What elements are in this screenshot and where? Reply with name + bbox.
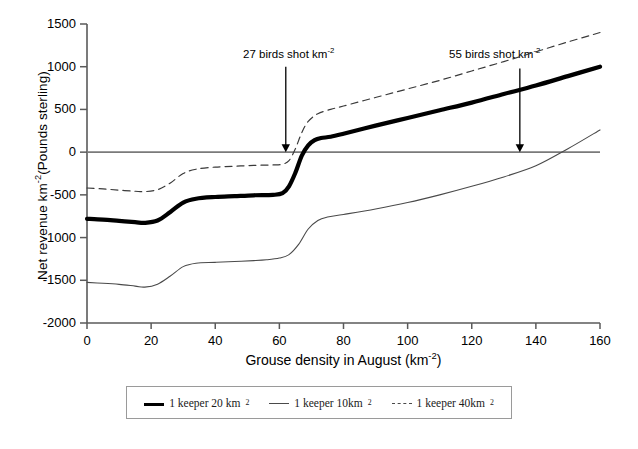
y-axis-title-base: Net revenue km <box>35 183 50 280</box>
y-axis-title-exponent: -2 <box>33 175 43 183</box>
x-axis-title: Grouse density in August (km-2) <box>87 352 600 368</box>
series-line-3 <box>87 33 600 192</box>
x-axis-title-tail: ) <box>437 352 442 368</box>
chart-legend: 1 keeper 20 km21 keeper 10km21 keeper 40… <box>126 386 512 419</box>
y-axis-title: Net revenue km-2(Pounds sterling) <box>35 26 50 326</box>
legend-item-2[interactable]: 1 keeper 10km2 <box>269 397 371 409</box>
legend-label: 1 keeper 10km <box>294 397 362 409</box>
legend-item-1[interactable]: 1 keeper 20 km2 <box>144 397 249 409</box>
legend-swatch-icon <box>144 398 164 408</box>
series-line-2 <box>87 130 600 287</box>
annotation-arrow-head-2 <box>516 144 524 152</box>
legend-item-3[interactable]: 1 keeper 40km2 <box>392 397 494 409</box>
legend-swatch-icon <box>269 398 289 408</box>
legend-label: 1 keeper 20 km <box>169 397 240 409</box>
annotation-arrow-head-1 <box>282 144 290 152</box>
y-axis-title-tail: (Pounds sterling) <box>35 71 50 175</box>
legend-swatch-icon <box>392 398 412 408</box>
x-axis-title-base: Grouse density in August (km <box>245 352 428 368</box>
chart-figure: 150010005000-500-1000-1500-2000020406080… <box>0 0 638 449</box>
chart-canvas <box>0 0 638 449</box>
x-axis-title-exponent: -2 <box>428 350 436 361</box>
legend-label: 1 keeper 40km <box>417 397 485 409</box>
